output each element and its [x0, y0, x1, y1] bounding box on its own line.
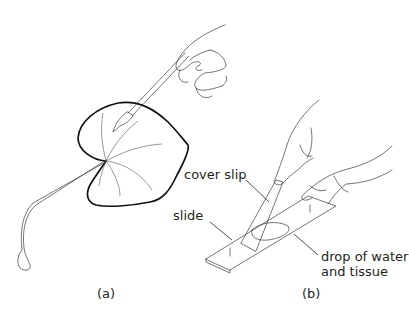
leader-slide	[210, 222, 232, 240]
panel-b-drawing	[206, 100, 392, 273]
leader-cover-slip	[246, 180, 269, 202]
leader-drop	[294, 234, 318, 255]
hand-b-right	[302, 146, 392, 204]
hand-a	[176, 25, 227, 90]
hand-a-fingers	[179, 70, 212, 98]
panel-a-drawing	[18, 25, 227, 270]
caption-b: (b)	[302, 287, 320, 301]
leaf-petiole	[18, 160, 106, 270]
hand-b-left	[274, 100, 319, 185]
label-slide: slide	[173, 209, 203, 223]
leaf-outline	[78, 102, 188, 206]
label-drop-line2: and tissue	[321, 265, 388, 279]
label-cover-slip: cover slip	[184, 168, 247, 182]
label-drop-line1: drop of water	[321, 250, 408, 264]
figure-canvas: cover slip slide drop of water and tissu…	[0, 0, 409, 315]
caption-a: (a)	[97, 287, 115, 301]
forceps	[113, 53, 189, 132]
leaf-veins	[99, 113, 162, 196]
